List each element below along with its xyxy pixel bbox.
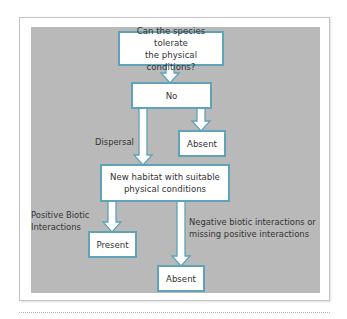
question-box: Can the species tolerate the physical co… [118, 31, 224, 66]
new-habitat-text-line1: New habitat with suitable [110, 171, 220, 183]
positive-label-line1: Positive Biotic [31, 209, 89, 221]
arrow-dispersal [134, 108, 152, 165]
negative-interactions-label: Negative biotic interactions or missing … [189, 216, 316, 240]
present-text: Present [96, 239, 128, 251]
positive-interactions-label: Positive Biotic Interactions [31, 209, 89, 233]
new-habitat-text-line2: physical conditions [124, 183, 206, 195]
dotted-divider [19, 312, 330, 313]
question-text-line2: the physical conditions? [120, 49, 222, 73]
absent-box-2: Absent [157, 265, 205, 292]
absent-text-1: Absent [187, 138, 217, 150]
present-box: Present [88, 231, 137, 258]
arrow-no-to-absent [192, 108, 210, 131]
arrow-positive [103, 201, 121, 232]
no-text: No [166, 90, 178, 102]
question-text-line1: Can the species tolerate [120, 25, 222, 49]
absent-text-2: Absent [166, 273, 196, 285]
arrow-negative [172, 201, 190, 266]
positive-label-line2: Interactions [31, 221, 89, 233]
negative-label-line1: Negative biotic interactions or [189, 216, 316, 228]
no-box: No [131, 82, 212, 109]
negative-label-line2: missing positive interactions [189, 228, 316, 240]
new-habitat-box: New habitat with suitable physical condi… [100, 164, 230, 202]
absent-box-1: Absent [178, 130, 226, 157]
dispersal-label: Dispersal [95, 136, 134, 148]
